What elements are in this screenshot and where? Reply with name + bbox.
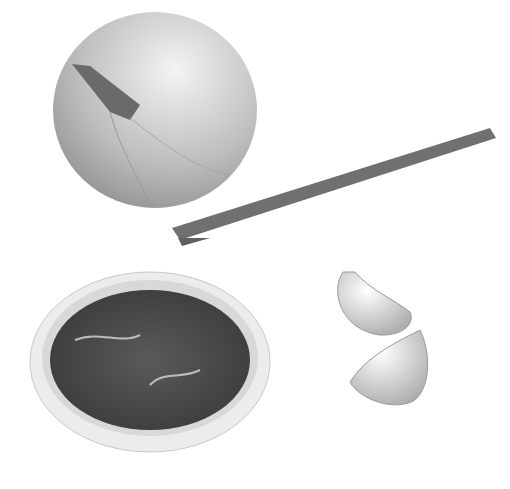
ingredients-photo [0,0,510,489]
bowl-of-tamarind [30,272,270,452]
onion [53,12,257,208]
garlic-clove-2 [350,330,428,405]
garlic-clove-1 [338,272,412,335]
photo-canvas [0,0,510,489]
